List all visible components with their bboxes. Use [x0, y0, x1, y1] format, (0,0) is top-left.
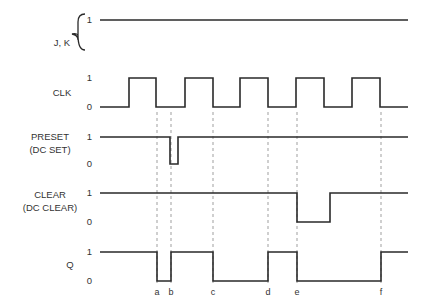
clear-waveform: [100, 193, 408, 222]
q-level-0: 0: [87, 275, 92, 286]
preset-level-0: 0: [87, 158, 92, 169]
q-waveform: [100, 252, 408, 281]
clear-label: (DC CLEAR): [23, 202, 77, 213]
clear-level-0: 0: [87, 216, 92, 227]
clk-level-1: 1: [87, 72, 92, 83]
clk-waveform: [100, 78, 408, 107]
clk-label: CLK: [53, 87, 72, 98]
marker-label-f: f: [380, 287, 383, 297]
preset-label: PRESET: [31, 131, 69, 142]
jk-brace: [72, 14, 85, 50]
marker-label-c: c: [211, 287, 216, 297]
preset-level-1: 1: [87, 131, 92, 142]
q-label: Q: [66, 259, 73, 270]
marker-label-a: a: [154, 287, 159, 297]
timing-diagram: abcdefJ, K1CLK10PRESET(DC SET)10CLEAR(DC…: [0, 0, 422, 308]
marker-label-e: e: [294, 287, 299, 297]
jk-level-1: 1: [87, 14, 92, 25]
preset-label: (DC SET): [29, 144, 70, 155]
q-level-1: 1: [87, 246, 92, 257]
marker-label-b: b: [168, 287, 173, 297]
clk-level-0: 0: [87, 101, 92, 112]
clear-level-1: 1: [87, 187, 92, 198]
clear-label: CLEAR: [34, 189, 66, 200]
preset-waveform: [100, 137, 408, 164]
marker-label-d: d: [265, 287, 270, 297]
jk-label: J, K: [54, 37, 71, 48]
